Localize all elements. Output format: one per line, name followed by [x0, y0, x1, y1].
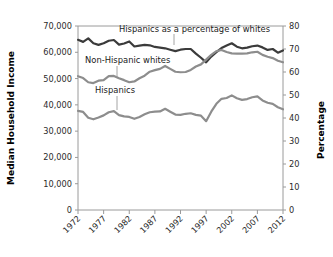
y2-tick-label: 10 [289, 182, 299, 192]
chart-container: 010,00020,00030,00040,00050,00060,00070,… [0, 0, 333, 257]
y-axis-left-title: Median Household Income [6, 51, 16, 185]
y2-tick-label: 0 [289, 205, 294, 215]
annotation-label: Hispanics as a percentage of whites [119, 24, 270, 34]
y2-tick-label: 40 [289, 113, 299, 123]
y-tick-label: 30,000 [43, 126, 72, 136]
y-tick-label: 50,000 [43, 74, 72, 84]
y2-tick-label: 30 [289, 136, 299, 146]
annotation-label: Non-Hispanic whites [85, 55, 170, 65]
y2-tick-label: 50 [289, 90, 299, 100]
y-tick-label: 70,000 [43, 21, 72, 31]
y2-tick-label: 20 [289, 159, 299, 169]
y-tick-label: 60,000 [43, 47, 72, 57]
y2-tick-label: 60 [289, 67, 299, 77]
y2-tick-label: 80 [289, 21, 299, 31]
y-axis-right-title: Percentage [316, 101, 326, 159]
income-percentage-line-chart: 010,00020,00030,00040,00050,00060,00070,… [0, 0, 333, 257]
y2-tick-label: 70 [289, 44, 299, 54]
y-tick-label: 20,000 [43, 152, 72, 162]
annotation-label: Hispanics [95, 85, 135, 95]
y-tick-label: 0 [67, 205, 72, 215]
y-tick-label: 10,000 [43, 179, 72, 189]
y-tick-label: 40,000 [43, 100, 72, 110]
